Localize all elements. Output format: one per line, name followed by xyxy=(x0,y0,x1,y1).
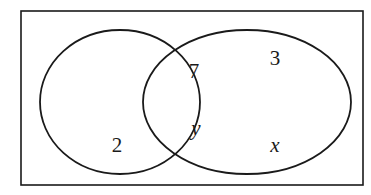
right-set-count-label: 3 xyxy=(270,48,281,69)
intersection-count-label: 7 xyxy=(189,61,200,82)
right-set-variable-label: x xyxy=(270,135,279,156)
venn-diagram-svg xyxy=(0,0,371,195)
intersection-variable-label: y xyxy=(191,118,200,139)
venn-diagram-canvas xyxy=(0,0,371,195)
right-set-ellipse xyxy=(143,30,351,174)
left-set-count-label: 2 xyxy=(112,135,123,156)
